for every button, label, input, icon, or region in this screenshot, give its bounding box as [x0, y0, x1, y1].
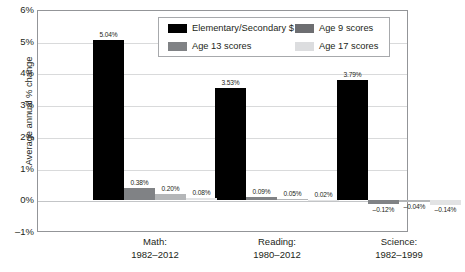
y-tick-label: 4%	[2, 68, 34, 78]
gridline	[38, 201, 407, 202]
legend: Elementary/Secondary $ Age 9 scores Age …	[158, 17, 390, 57]
bar	[337, 80, 368, 200]
legend-label-elementary-secondary: Elementary/Secondary $	[192, 23, 294, 33]
bar	[93, 40, 124, 200]
x-group-label-subject: Math:	[143, 236, 167, 247]
legend-label-age-9: Age 9 scores	[319, 23, 373, 33]
legend-item-age-9: Age 9 scores	[295, 23, 373, 33]
bar	[399, 200, 430, 201]
legend-swatch-icon-age-17	[295, 42, 314, 51]
x-group-label-years: 1982–2012	[105, 249, 205, 262]
bar	[186, 198, 217, 201]
bar-value-label: –0.14%	[422, 206, 465, 213]
x-group-label: Science:1982–1999	[349, 236, 449, 261]
x-group-label-subject: Science:	[381, 236, 417, 247]
bar-value-label: 3.79%	[329, 71, 376, 78]
bar	[246, 197, 277, 200]
y-tick-label: 6%	[2, 5, 34, 15]
bar	[308, 200, 339, 201]
legend-swatch-icon-age-9	[295, 24, 314, 33]
bar-value-label: 5.04%	[85, 31, 132, 38]
y-tick-label: 3%	[2, 100, 34, 110]
bar	[430, 200, 461, 204]
legend-item-age-13: Age 13 scores	[168, 41, 251, 51]
x-group-label: Math:1982–2012	[105, 236, 205, 261]
bar-value-label: 0.08%	[178, 189, 225, 196]
x-group-label: Reading:1980–2012	[227, 236, 327, 261]
x-group-label-years: 1982–1999	[349, 249, 449, 262]
y-tick-label: 0%	[2, 195, 34, 205]
legend-label-age-17: Age 17 scores	[319, 41, 378, 51]
y-tick-label: 1%	[2, 164, 34, 174]
bar	[215, 88, 246, 200]
x-group-label-years: 1980–2012	[227, 249, 327, 262]
x-group-label-subject: Reading:	[258, 236, 296, 247]
legend-swatch-icon-elementary-secondary	[168, 24, 187, 33]
bar-value-label: 3.53%	[207, 79, 254, 86]
legend-item-age-17: Age 17 scores	[295, 41, 378, 51]
legend-swatch-icon-age-13	[168, 42, 187, 51]
y-tick-label: 2%	[2, 132, 34, 142]
bar	[277, 199, 308, 201]
legend-item-elementary-secondary: Elementary/Secondary $	[168, 23, 294, 33]
y-tick-label: –1%	[2, 227, 34, 237]
y-tick-label: 5%	[2, 37, 34, 47]
legend-label-age-13: Age 13 scores	[192, 41, 251, 51]
bar-value-label: 0.02%	[300, 191, 347, 198]
